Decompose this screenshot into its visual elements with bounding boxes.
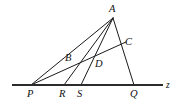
- segment-AP: [31, 18, 113, 85]
- geometry-figure: A B C D P R S Q z: [0, 0, 179, 107]
- point-label-Q: Q: [130, 89, 138, 100]
- segment-AQ: [113, 18, 134, 85]
- segment-PC: [31, 42, 126, 85]
- point-label-B: B: [65, 53, 71, 64]
- point-label-P: P: [27, 89, 33, 100]
- point-label-C: C: [125, 37, 132, 48]
- point-label-A: A: [109, 4, 115, 15]
- segment-AS: [81, 18, 113, 85]
- point-label-D: D: [95, 59, 103, 70]
- point-label-S: S: [77, 89, 82, 100]
- point-label-R: R: [59, 89, 65, 100]
- axis-label-z: z: [166, 81, 170, 91]
